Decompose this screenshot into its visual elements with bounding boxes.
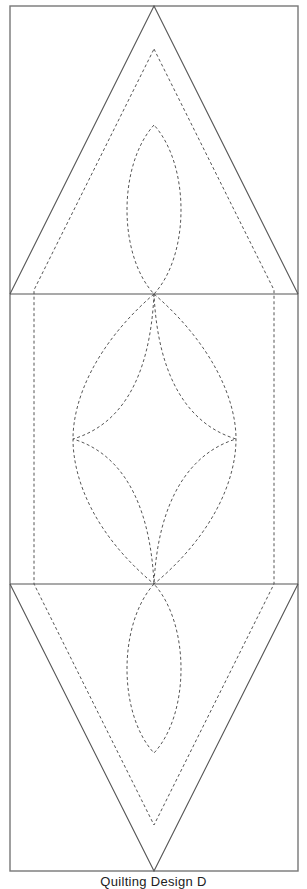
center-star xyxy=(73,294,236,584)
diagram-caption: Quilting Design D xyxy=(0,874,307,889)
bottom-lens xyxy=(127,584,181,753)
outer-frame xyxy=(10,6,298,871)
center-lens xyxy=(73,294,236,584)
inner-dashed-outline xyxy=(34,49,274,825)
bottom-triangle xyxy=(10,584,298,871)
top-lens xyxy=(127,125,181,294)
